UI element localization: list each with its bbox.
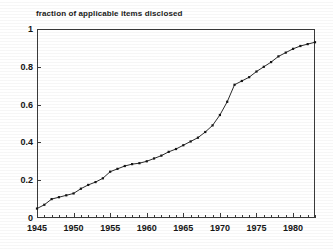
data-point-marker <box>263 66 265 68</box>
x-tick-label: 1950 <box>64 223 84 233</box>
data-point-marker <box>72 192 74 194</box>
data-point-marker <box>211 124 213 126</box>
y-tick-label: 0.8 <box>20 62 33 72</box>
x-tick-label: 1975 <box>246 223 266 233</box>
data-point-marker <box>204 131 206 133</box>
x-tick-label: 1955 <box>100 223 120 233</box>
data-point-marker <box>131 163 133 165</box>
x-tick-mark-minor <box>315 215 316 218</box>
y-tick-label: 0.4 <box>20 137 33 147</box>
data-point-marker <box>65 194 67 196</box>
data-point-marker <box>241 80 243 82</box>
data-point-marker <box>285 52 287 54</box>
data-point-marker <box>43 204 45 206</box>
plot-area <box>37 29 315 218</box>
data-point-marker <box>94 181 96 183</box>
data-point-marker <box>197 137 199 139</box>
data-point-marker <box>138 162 140 164</box>
x-tick-label: 1965 <box>173 223 193 233</box>
y-tick-label: 0.6 <box>20 100 33 110</box>
data-point-marker <box>175 148 177 150</box>
data-point-marker <box>58 196 60 198</box>
data-point-marker <box>80 188 82 190</box>
data-point-marker <box>190 140 192 142</box>
data-point-marker <box>36 207 38 209</box>
data-series-layer <box>37 29 315 218</box>
data-point-marker <box>116 168 118 170</box>
data-point-marker <box>255 70 257 72</box>
x-tick-label: 1980 <box>283 223 303 233</box>
data-point-marker <box>314 41 316 43</box>
x-tick-label: 1945 <box>27 223 47 233</box>
data-point-marker <box>233 84 235 86</box>
y-tick-label: 0 <box>28 213 33 223</box>
data-point-marker <box>270 61 272 63</box>
y-tick-label: 1 <box>28 24 33 34</box>
data-point-marker <box>160 155 162 157</box>
data-point-marker <box>153 157 155 159</box>
data-point-marker <box>219 114 221 116</box>
x-tick-label: 1970 <box>210 223 230 233</box>
data-point-marker <box>109 171 111 173</box>
data-point-marker <box>226 101 228 103</box>
data-point-marker <box>87 184 89 186</box>
data-point-marker <box>51 198 53 200</box>
data-point-marker <box>124 165 126 167</box>
data-point-marker <box>299 45 301 47</box>
data-point-marker <box>307 43 309 45</box>
x-tick-label: 1960 <box>137 223 157 233</box>
data-point-marker <box>292 48 294 50</box>
chart-figure: fraction of applicable items disclosed 0… <box>0 0 333 249</box>
y-tick-label: 0.2 <box>20 175 33 185</box>
data-point-marker <box>168 151 170 153</box>
data-point-marker <box>248 76 250 78</box>
chart-title: fraction of applicable items disclosed <box>36 9 183 18</box>
data-point-marker <box>102 177 104 179</box>
data-point-marker <box>146 160 148 162</box>
series-markers <box>36 41 316 210</box>
series-line <box>37 42 315 208</box>
data-point-marker <box>277 55 279 57</box>
data-point-marker <box>182 144 184 146</box>
